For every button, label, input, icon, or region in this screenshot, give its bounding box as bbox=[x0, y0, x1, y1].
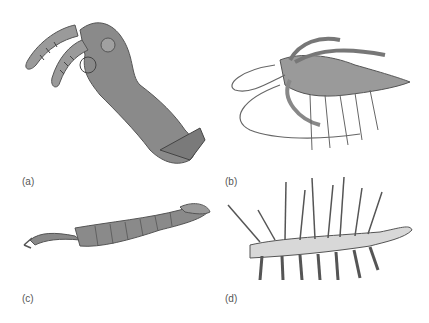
panel-label-a: (a) bbox=[22, 176, 34, 187]
panel-d-illustration bbox=[228, 177, 412, 280]
panel-b-illustration bbox=[232, 39, 410, 150]
panel-label-b: (b) bbox=[225, 176, 237, 187]
panel-a-illustration bbox=[26, 23, 205, 163]
panel-c-illustration bbox=[24, 204, 210, 248]
panel-label-c: (c) bbox=[22, 293, 34, 304]
figure-canvas bbox=[0, 0, 429, 323]
panel-label-d: (d) bbox=[225, 293, 237, 304]
